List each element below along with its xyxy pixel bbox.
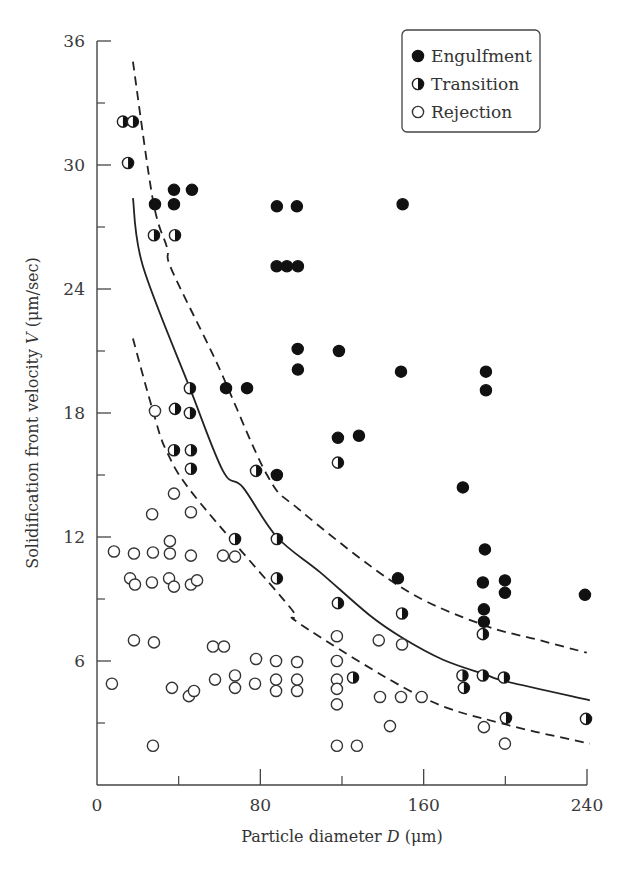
fit-curve bbox=[133, 198, 590, 700]
open-circle-icon bbox=[478, 722, 489, 733]
open-circle-icon bbox=[188, 685, 199, 696]
data-point bbox=[108, 546, 119, 557]
open-circle-icon bbox=[129, 579, 140, 590]
filled-circle-icon bbox=[353, 430, 364, 441]
filled-circle-icon bbox=[271, 469, 282, 480]
data-point bbox=[148, 637, 159, 648]
filled-circle-icon bbox=[478, 616, 489, 627]
filled-circle-icon bbox=[395, 366, 406, 377]
open-circle-icon bbox=[270, 674, 281, 685]
filled-circle-icon bbox=[457, 482, 468, 493]
open-circle-icon bbox=[270, 685, 281, 696]
data-point bbox=[396, 608, 407, 619]
data-point bbox=[271, 201, 282, 212]
data-point bbox=[209, 674, 220, 685]
data-point bbox=[397, 199, 408, 210]
data-point bbox=[229, 682, 240, 693]
data-point bbox=[270, 685, 281, 696]
legend: EngulfmentTransitionRejection bbox=[402, 30, 540, 132]
data-point bbox=[580, 713, 591, 724]
data-point bbox=[129, 579, 140, 590]
open-circle-icon bbox=[229, 551, 240, 562]
data-point bbox=[331, 699, 342, 710]
data-point bbox=[478, 604, 489, 615]
data-point bbox=[332, 598, 343, 609]
lower-bound-curve bbox=[133, 339, 590, 744]
data-point bbox=[168, 184, 179, 195]
open-circle-icon bbox=[191, 575, 202, 586]
filled-circle-icon bbox=[149, 199, 160, 210]
legend-label: Rejection bbox=[431, 102, 512, 122]
open-circle-icon bbox=[128, 635, 139, 646]
data-point bbox=[291, 685, 302, 696]
data-point bbox=[191, 575, 202, 586]
data-point bbox=[185, 507, 196, 518]
data-point bbox=[416, 691, 427, 702]
open-circle-icon bbox=[270, 655, 281, 666]
data-point bbox=[498, 672, 509, 683]
data-point bbox=[185, 463, 196, 474]
open-circle-icon bbox=[331, 683, 342, 694]
data-point bbox=[477, 577, 488, 588]
data-point bbox=[331, 740, 342, 751]
open-circle-icon bbox=[331, 699, 342, 710]
data-point bbox=[229, 533, 240, 544]
open-circle-icon bbox=[229, 670, 240, 681]
open-circle-icon bbox=[291, 674, 302, 685]
data-point bbox=[229, 551, 240, 562]
legend-label: Engulfment bbox=[431, 46, 532, 66]
data-point bbox=[292, 261, 303, 272]
filled-circle-icon bbox=[397, 199, 408, 210]
series-engulfment bbox=[149, 184, 590, 627]
data-point bbox=[186, 184, 197, 195]
data-point bbox=[292, 364, 303, 375]
data-point bbox=[218, 641, 229, 652]
open-circle-icon bbox=[168, 488, 179, 499]
filled-circle-icon bbox=[220, 383, 231, 394]
data-point bbox=[168, 445, 179, 456]
series-rejection bbox=[106, 405, 510, 751]
data-point bbox=[184, 407, 195, 418]
data-point bbox=[480, 385, 491, 396]
data-point bbox=[331, 683, 342, 694]
data-point bbox=[185, 550, 196, 561]
data-point bbox=[168, 581, 179, 592]
data-point bbox=[164, 548, 175, 559]
open-circle-icon bbox=[185, 507, 196, 518]
data-point bbox=[579, 589, 590, 600]
data-point bbox=[169, 403, 180, 414]
filled-circle-icon bbox=[168, 184, 179, 195]
y-tick-label: 18 bbox=[63, 403, 85, 423]
data-point bbox=[333, 345, 344, 356]
filled-circle-icon bbox=[292, 261, 303, 272]
data-point bbox=[395, 691, 406, 702]
open-circle-icon bbox=[331, 740, 342, 751]
axes: 61218243036080160240 bbox=[63, 31, 603, 815]
data-point bbox=[250, 653, 261, 664]
data-point bbox=[250, 465, 261, 476]
open-circle-icon bbox=[291, 656, 302, 667]
data-point bbox=[271, 573, 282, 584]
data-point bbox=[499, 575, 510, 586]
open-circle-icon bbox=[147, 740, 158, 751]
data-point bbox=[146, 577, 157, 588]
data-point bbox=[147, 547, 158, 558]
data-point bbox=[281, 261, 292, 272]
data-point bbox=[241, 383, 252, 394]
data-point bbox=[106, 678, 117, 689]
data-point bbox=[166, 682, 177, 693]
filled-circle-icon bbox=[168, 199, 179, 210]
filled-circle-icon bbox=[479, 544, 490, 555]
filled-circle-icon bbox=[392, 573, 403, 584]
filled-circle-icon bbox=[477, 577, 488, 588]
open-circle-icon bbox=[331, 631, 342, 642]
data-point bbox=[332, 432, 343, 443]
data-point bbox=[373, 635, 384, 646]
x-tick-label: 80 bbox=[250, 795, 272, 815]
data-point bbox=[291, 674, 302, 685]
data-point bbox=[479, 544, 490, 555]
filled-circle-icon bbox=[480, 366, 491, 377]
data-point bbox=[351, 740, 362, 751]
open-circle-icon bbox=[217, 550, 228, 561]
open-circle-icon bbox=[218, 641, 229, 652]
